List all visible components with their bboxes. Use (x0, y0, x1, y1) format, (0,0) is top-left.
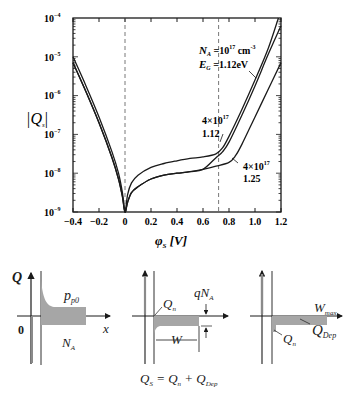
diagram-origin-label: 0 (18, 323, 24, 337)
y-axis-label: |Qs| (26, 110, 48, 129)
qna-label: qNA (194, 285, 214, 302)
annotation-leader (220, 134, 223, 142)
annotation-na: NA =1017 cm-3 (198, 44, 255, 57)
annotation-eg: EG =1.12eV (198, 58, 249, 71)
x-tick-labels: −0.4 −0.2 0 0.2 0.4 0.6 0.8 1.0 1.2 (64, 216, 287, 227)
x-tick-label: 0 (123, 216, 128, 227)
qn-leader (274, 330, 282, 335)
charge-equation: QS = Qn + QDep (140, 371, 218, 388)
chart: 10−4 10−5 10−6 10−7 10−8 10−9 −0.4 −0.2 … (26, 12, 287, 250)
x-tick-label: 0.2 (145, 216, 158, 227)
y-tick-label: 10−5 (44, 51, 60, 63)
wmax-label: Wmax (314, 300, 337, 317)
annotations: NA =1017 cm-3 EG =1.12eV 4×1017 1.12 4×1… (198, 44, 270, 184)
annotation-4e17-125: 4×1017 (243, 160, 270, 172)
x-tick-label: −0.4 (64, 216, 82, 227)
x-tick-label: −0.2 (90, 216, 108, 227)
y-tick-label: 10−9 (44, 206, 60, 218)
y-tick-label: 10−6 (44, 89, 60, 101)
qn-leader (155, 307, 162, 315)
y-tick-label: 10−4 (44, 12, 60, 24)
qn-label: Qn (163, 296, 176, 313)
w-label: W (171, 332, 183, 347)
figure: 10−4 10−5 10−6 10−7 10−8 10−9 −0.4 −0.2 … (0, 0, 361, 407)
diagram-q-label: Q (12, 270, 22, 285)
annotation-112: 1.12 (202, 128, 220, 139)
diagram-accumulation: Q 0 x pp0 NA (12, 270, 110, 365)
na-label: NA (61, 335, 76, 352)
annotation-leader (232, 158, 238, 163)
annotation-4e17-112: 4×1017 (202, 114, 229, 126)
x-tick-label: 1.2 (275, 216, 288, 227)
annotation-125: 1.25 (243, 173, 261, 184)
x-tick-label: 1.0 (249, 216, 262, 227)
y-tick-label: 10−8 (44, 167, 60, 179)
diagram-inversion: Qn qNA W (132, 271, 228, 364)
y-tick-label: 10−7 (44, 128, 60, 140)
x-axis-label: φS [V] (155, 233, 187, 250)
diagram-x-label: x (102, 321, 109, 336)
x-tick-label: 0.4 (171, 216, 184, 227)
annotation-leader (249, 71, 256, 78)
x-tick-label: 0.6 (197, 216, 210, 227)
series-curve (73, 63, 281, 212)
diagram-strong-inversion: Qn QDep Wmax (250, 271, 342, 364)
ppo-label: pp0 (63, 288, 79, 305)
qn-label: Qn (283, 331, 296, 348)
x-tick-label: 0.8 (223, 216, 236, 227)
